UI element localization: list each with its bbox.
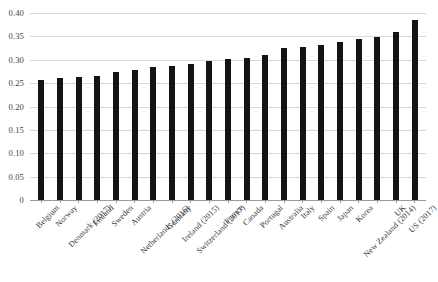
bar: [337, 42, 343, 200]
x-label-slot: US (2017): [405, 203, 424, 282]
bar-slot: [349, 13, 368, 200]
bar: [113, 72, 119, 200]
bar: [318, 45, 324, 200]
x-label-slot: UK: [387, 203, 406, 282]
bar-slot: [312, 13, 331, 200]
bar-slot: [387, 13, 406, 200]
x-tick-label: US (2017): [407, 204, 438, 235]
bar: [374, 37, 380, 200]
x-label-slot: Spain: [312, 203, 331, 282]
y-tick-label: 0.25: [9, 79, 24, 88]
x-label-slot: Ireland (2015): [181, 203, 200, 282]
x-label-slot: Denmark (2017): [69, 203, 88, 282]
x-label-slot: Netherlands (2016): [144, 203, 163, 282]
bar: [188, 64, 194, 200]
bar: [38, 80, 44, 200]
bar-slot: [163, 13, 182, 200]
x-label-slot: Austria: [125, 203, 144, 282]
bar-slot: [51, 13, 70, 200]
x-label-slot: New Zealand (2014): [368, 203, 387, 282]
y-tick-label: 0.05: [9, 172, 24, 181]
bar-slot: [107, 13, 126, 200]
bar: [262, 55, 268, 200]
bar-slot: [125, 13, 144, 200]
bar: [206, 61, 212, 200]
x-label-slot: Canada: [237, 203, 256, 282]
bar-slot: [256, 13, 275, 200]
x-label-slot: Japan: [331, 203, 350, 282]
bar: [132, 70, 138, 200]
bar-slot: [181, 13, 200, 200]
bar: [281, 48, 287, 200]
bar: [150, 67, 156, 200]
bar-slot: [144, 13, 163, 200]
bar-slot: [275, 13, 294, 200]
bar-slot: [405, 13, 424, 200]
y-tick-label: 0.35: [9, 32, 24, 41]
bar: [169, 66, 175, 200]
y-tick-label: 0.20: [9, 102, 24, 111]
bar-slot: [293, 13, 312, 200]
bar-slot: [32, 13, 51, 200]
x-label-slot: Sweden: [107, 203, 126, 282]
x-label-slot: France: [219, 203, 238, 282]
x-label-slot: Italy: [293, 203, 312, 282]
y-axis-tick-labels: 0.400.350.300.250.200.150.100.050: [0, 13, 27, 200]
x-label-slot: Switzerland (2017): [200, 203, 219, 282]
bar: [244, 58, 250, 200]
bar-series: [30, 13, 426, 200]
bar: [412, 20, 418, 200]
bar-slot: [331, 13, 350, 200]
plot-area: [30, 13, 426, 200]
x-label-slot: Finland: [88, 203, 107, 282]
bar-slot: [200, 13, 219, 200]
x-axis-tick-labels: BelgiumNorwayDenmark (2017)FinlandSweden…: [30, 203, 426, 282]
y-tick-label: 0.10: [9, 149, 24, 158]
bar: [57, 78, 63, 200]
x-label-slot: Portugal: [256, 203, 275, 282]
bar-slot: [219, 13, 238, 200]
x-label-slot: Germany: [163, 203, 182, 282]
y-tick-label: 0.30: [9, 55, 24, 64]
x-label-slot: Belgium: [32, 203, 51, 282]
bar-slot: [237, 13, 256, 200]
bar: [356, 39, 362, 200]
x-label-slot: Korea: [349, 203, 368, 282]
bar: [225, 59, 231, 200]
bar: [94, 76, 100, 200]
bar-slot: [368, 13, 387, 200]
bar: [300, 47, 306, 200]
y-tick-label: 0: [20, 196, 24, 205]
x-label-slot: Australia: [275, 203, 294, 282]
y-tick-label: 0.40: [9, 9, 24, 18]
bar-slot: [88, 13, 107, 200]
bar-slot: [69, 13, 88, 200]
bar: [393, 32, 399, 200]
bar: [76, 77, 82, 200]
y-tick-label: 0.15: [9, 126, 24, 135]
